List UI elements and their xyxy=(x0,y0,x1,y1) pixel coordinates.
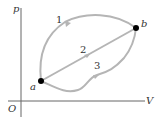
p-axis-label: p xyxy=(13,3,20,14)
point-a-label: a xyxy=(30,81,36,92)
path-3-curve xyxy=(41,28,136,91)
path-3-label: 3 xyxy=(94,60,100,71)
pv-diagram: p V O a b 1 2 3 xyxy=(0,0,157,119)
point-b-label: b xyxy=(141,18,147,29)
point-a xyxy=(38,78,44,84)
point-b xyxy=(133,25,139,31)
origin-label: O xyxy=(8,103,16,114)
path-1-arrow-icon xyxy=(65,21,71,27)
v-axis-label: V xyxy=(146,95,155,106)
path-2-label: 2 xyxy=(80,44,86,55)
path-1-curve xyxy=(40,15,136,81)
path-1-label: 1 xyxy=(56,14,62,25)
